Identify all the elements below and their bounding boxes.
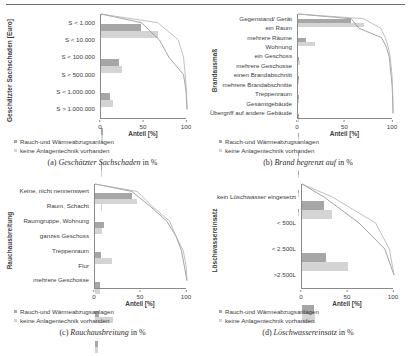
figure-grid: Geschätzter Sachschaden [Euro] S < 1.000… bbox=[0, 8, 411, 356]
x-axis-tick-label: 0 bbox=[98, 120, 101, 130]
caption-tail-a: in % bbox=[142, 158, 157, 167]
legend-label-series1-a: Rauch-und Wärmeabzugsanlagen bbox=[20, 138, 114, 145]
cumulative-curve bbox=[302, 184, 394, 275]
x-axis-tick-label: 50 bbox=[137, 290, 144, 300]
x-axis-line-b bbox=[297, 118, 392, 119]
caption-title-a: Geschätzter Sachschaden bbox=[59, 158, 141, 167]
y-axis-title-c-text: Rauchausbreitung bbox=[7, 211, 14, 269]
x-axis-tick-label: 100 bbox=[181, 120, 191, 130]
caption-label-d: (d) bbox=[262, 328, 271, 337]
y-axis-category-label: < 500L bbox=[277, 220, 296, 226]
x-axis-line-c bbox=[94, 288, 186, 289]
y-axis-category-label: einen Brandabschnitt bbox=[234, 72, 292, 78]
cumulative-curves-c bbox=[95, 184, 187, 288]
tick-mark bbox=[185, 290, 186, 292]
x-axis-tick-label: 0 bbox=[295, 120, 298, 130]
tick-mark bbox=[99, 120, 100, 122]
y-axis-category-label: mehrere Brandabschnitte bbox=[223, 82, 292, 88]
cumulative-curves-a bbox=[101, 14, 187, 118]
legend-swatch-icon-series1-d bbox=[219, 310, 222, 313]
y-axis-title-a: Geschätzter Sachschaden [Euro] bbox=[4, 14, 16, 126]
y-axis-title-a-text: Geschätzter Sachschaden [Euro] bbox=[7, 18, 14, 121]
legend-label-series2-b: keine Anlagentechnik vorhanden bbox=[225, 147, 314, 154]
tick-mark bbox=[344, 120, 345, 122]
legend-swatch-icon-series1-b bbox=[219, 140, 222, 143]
y-axis-category-label: S < 1.000.000 bbox=[56, 89, 95, 95]
legend-label-series2-c: keine Anlagentechnik vorhanden bbox=[20, 317, 109, 324]
legend-item-series1-b: Rauch-und Wärmeabzugsanlagen bbox=[219, 138, 319, 145]
caption-label-b: (b) bbox=[263, 158, 272, 167]
legend-c: Rauch-und Wärmeabzugsanlagen keine Anlag… bbox=[14, 308, 114, 324]
cumulative-curve bbox=[101, 14, 187, 109]
tick-mark bbox=[93, 290, 94, 292]
legend-a: Rauch-und Wärmeabzugsanlagen keine Anlag… bbox=[14, 138, 114, 154]
chart-d: Löschwassereinsatz kein Löschwasser eing… bbox=[205, 184, 411, 302]
caption-a: (a) Geschätzter Sachschaden in % bbox=[0, 158, 205, 167]
legend-b: Rauch-und Wärmeabzugsanlagen keine Anlag… bbox=[219, 138, 319, 154]
legend-label-series2-d: keine Anlagentechnik vorhanden bbox=[225, 317, 314, 324]
y-axis-category-label: Treppenraum bbox=[52, 248, 89, 254]
legend-d: Rauch-und Wärmeabzugsanlagen keine Anlag… bbox=[219, 308, 319, 324]
y-axis-categories-a: S < 1.000S < 10.000S < 100.000S < 500.00… bbox=[40, 14, 98, 118]
legend-swatch-icon-series2-d bbox=[219, 319, 222, 322]
caption-title-d: Löschwassereinsatz bbox=[274, 328, 337, 337]
caption-c: (c) Rauchausbreitung in % bbox=[0, 328, 205, 337]
legend-swatch-icon-series2-b bbox=[219, 149, 222, 152]
chart-b: Brandausmaß Gegenstand/ Gerätein Raummeh… bbox=[205, 14, 411, 132]
x-axis-tick-label: 100 bbox=[387, 120, 397, 130]
tick-mark bbox=[139, 290, 140, 292]
cumulative-curve bbox=[101, 14, 187, 109]
legend-item-series2-a: keine Anlagentechnik vorhanden bbox=[14, 147, 114, 154]
caption-tail-d: in % bbox=[339, 328, 354, 337]
y-axis-category-label: >2.500L bbox=[273, 272, 296, 278]
x-axis-tick-label: 0 bbox=[92, 290, 95, 300]
y-axis-category-label: S < 500.000 bbox=[61, 72, 95, 78]
legend-label-series1-d: Rauch-und Wärmeabzugsanlagen bbox=[225, 308, 319, 315]
y-axis-categories-b: Gegenstand/ Gerätein Raummehrere RäumeWo… bbox=[215, 14, 295, 118]
plot-area-b bbox=[297, 14, 392, 118]
y-axis-category-label: mehrere Geschosse bbox=[236, 63, 292, 69]
cumulative-curve bbox=[298, 14, 393, 113]
y-axis-category-label: Übergriff auf andere Gebäude bbox=[210, 110, 292, 116]
plot-area-c bbox=[94, 184, 186, 288]
panel-c: Rauchausbreitung Keine, nicht nennenswer… bbox=[0, 178, 205, 348]
y-axis-category-label: ein Geschoss bbox=[255, 53, 293, 59]
legend-swatch-icon-series1-a bbox=[14, 140, 17, 143]
tick-mark bbox=[185, 120, 186, 122]
x-axis-title-c: Anteil [%] bbox=[94, 300, 186, 307]
plot-area-d bbox=[301, 184, 393, 288]
legend-item-series2-d: keine Anlagentechnik vorhanden bbox=[219, 317, 319, 324]
y-axis-category-label: S < 100.000 bbox=[61, 54, 95, 60]
y-axis-category-label: ganzes Geschoss bbox=[40, 233, 89, 239]
y-axis-category-label: S < 10.000 bbox=[65, 37, 95, 43]
y-axis-category-label: < 2.500L bbox=[272, 246, 296, 252]
legend-item-series2-c: keine Anlagentechnik vorhanden bbox=[14, 317, 114, 324]
y-axis-category-label: Treppenraum bbox=[255, 91, 292, 97]
legend-item-series1-a: Rauch-und Wärmeabzugsanlagen bbox=[14, 138, 114, 145]
bar-series2 bbox=[95, 347, 98, 353]
cumulative-curves-b bbox=[298, 14, 393, 118]
legend-item-series1-d: Rauch-und Wärmeabzugsanlagen bbox=[219, 308, 319, 315]
tick-mark bbox=[346, 290, 347, 292]
y-axis-category-label: ein Raum bbox=[266, 25, 292, 31]
x-axis-line-d bbox=[301, 288, 393, 289]
legend-item-series1-c: Rauch-und Wärmeabzugsanlagen bbox=[14, 308, 114, 315]
chart-a: Geschätzter Sachschaden [Euro] S < 1.000… bbox=[0, 14, 205, 132]
caption-tail-c: in % bbox=[131, 328, 146, 337]
y-axis-category-label: Gegenstand/ Gerät bbox=[239, 16, 292, 22]
tick-mark bbox=[391, 120, 392, 122]
caption-d: (d) Löschwassereinsatz in % bbox=[205, 328, 411, 337]
header-rule bbox=[6, 4, 405, 5]
y-axis-category-label: Raum, Schacht bbox=[47, 203, 89, 209]
x-axis-tick-label: 50 bbox=[341, 120, 348, 130]
caption-title-b: Brand begrenzt auf bbox=[274, 158, 335, 167]
tick-mark bbox=[142, 120, 143, 122]
x-axis-tick-label: 0 bbox=[299, 290, 302, 300]
caption-b: (b) Brand begrenzt auf in % bbox=[205, 158, 411, 167]
legend-label-series1-c: Rauch-und Wärmeabzugsanlagen bbox=[20, 308, 114, 315]
panel-d: Löschwassereinsatz kein Löschwasser eing… bbox=[205, 178, 411, 348]
cumulative-curve bbox=[95, 184, 187, 281]
y-axis-category-label: kein Löschwasser eingesetzt bbox=[217, 194, 296, 200]
y-axis-category-label: Gesamtgebäude bbox=[246, 101, 292, 107]
legend-label-series2-a: keine Anlagentechnik vorhanden bbox=[20, 147, 109, 154]
